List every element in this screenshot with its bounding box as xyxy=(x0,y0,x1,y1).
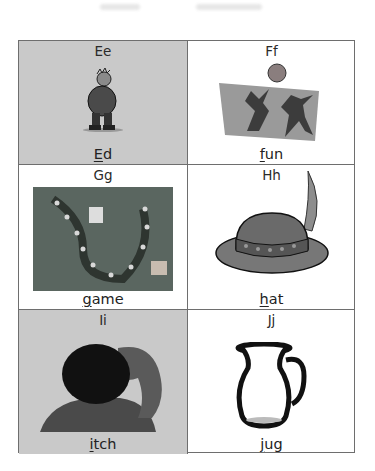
card-hh: Hh hat xyxy=(187,165,355,310)
card-letter: Ii xyxy=(19,312,187,328)
card-word: fun xyxy=(188,146,355,162)
alphabet-card-grid: Ee Ed Ff fun Gg xyxy=(18,40,355,453)
children-playing-ball-icon xyxy=(207,61,337,147)
card-letter: Ee xyxy=(19,43,187,59)
man-standing-icon xyxy=(78,67,128,133)
card-ii: Ii itch xyxy=(19,310,187,454)
word-rest: ug xyxy=(264,436,282,452)
word-first-letter: g xyxy=(82,291,91,307)
word-first-letter: E xyxy=(94,146,103,162)
card-word: jug xyxy=(188,436,355,452)
word-rest: ame xyxy=(92,291,124,307)
card-word: hat xyxy=(188,291,355,307)
card-letter: Jj xyxy=(188,312,355,328)
word-rest: d xyxy=(103,146,112,162)
card-word: itch xyxy=(19,436,187,452)
card-letter: Gg xyxy=(19,167,187,183)
card-ee: Ee Ed xyxy=(19,41,187,165)
card-jj: Jj jug xyxy=(187,310,355,454)
word-rest: un xyxy=(265,146,283,162)
word-first-letter: h xyxy=(260,291,269,307)
board-game-icon xyxy=(33,187,173,291)
word-rest: at xyxy=(269,291,284,307)
card-word: Ed xyxy=(19,146,187,162)
jug-icon xyxy=(234,342,310,430)
faded-header-smudge xyxy=(100,4,140,10)
word-rest: tch xyxy=(94,436,117,452)
card-letter: Ff xyxy=(188,43,355,59)
card-word: game xyxy=(19,291,187,307)
card-gg: Gg game xyxy=(19,165,187,310)
feathered-hat-icon xyxy=(212,169,332,277)
person-scratching-head-icon xyxy=(40,334,166,432)
faded-header-smudge xyxy=(196,4,262,10)
card-ff: Ff fun xyxy=(187,41,355,165)
